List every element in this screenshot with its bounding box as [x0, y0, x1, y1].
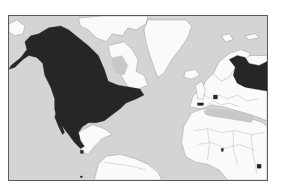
range-west-africa-patch	[221, 148, 223, 151]
range-central-europe-patch	[213, 95, 217, 99]
map-frame	[8, 15, 268, 181]
range-pacific-dot	[80, 176, 82, 177]
range-map	[9, 16, 267, 180]
range-iberia-patch	[198, 103, 204, 105]
range-east-africa-patch	[257, 164, 261, 168]
range-central-america-patch	[80, 150, 83, 153]
